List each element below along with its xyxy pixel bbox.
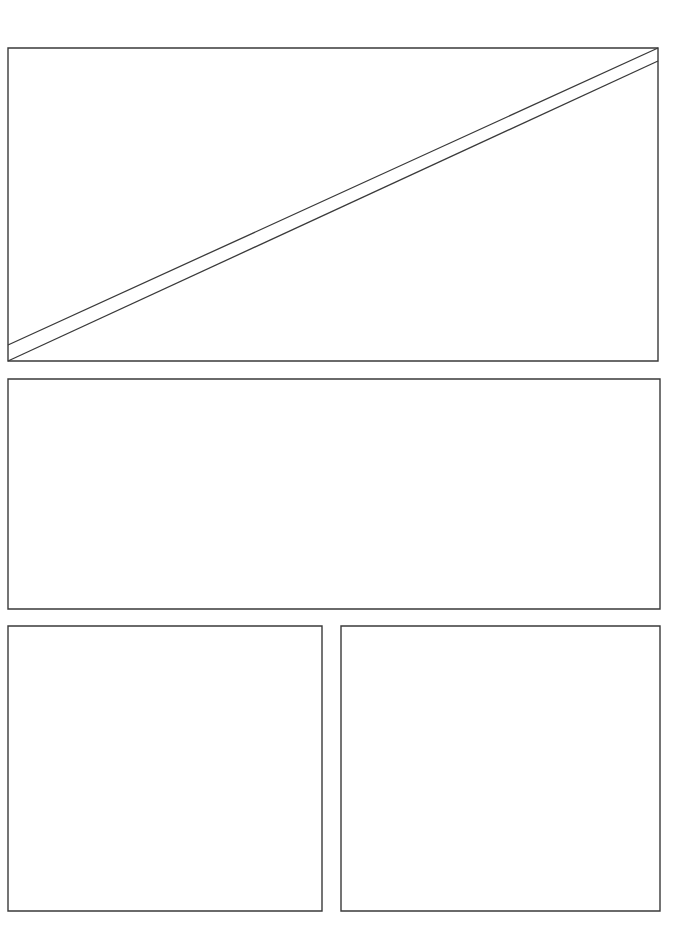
panel-4-fill[interactable] bbox=[341, 626, 660, 911]
panel-2-fill[interactable] bbox=[8, 379, 660, 609]
page-canvas bbox=[0, 0, 689, 950]
panel-3-group[interactable] bbox=[8, 626, 322, 911]
panel-1-group[interactable] bbox=[8, 48, 658, 361]
panel-3-fill[interactable] bbox=[8, 626, 322, 911]
panel-1-fill[interactable] bbox=[8, 48, 658, 361]
layout-svg bbox=[0, 0, 689, 950]
panel-2-group[interactable] bbox=[8, 379, 660, 609]
panel-4-group[interactable] bbox=[341, 626, 660, 911]
